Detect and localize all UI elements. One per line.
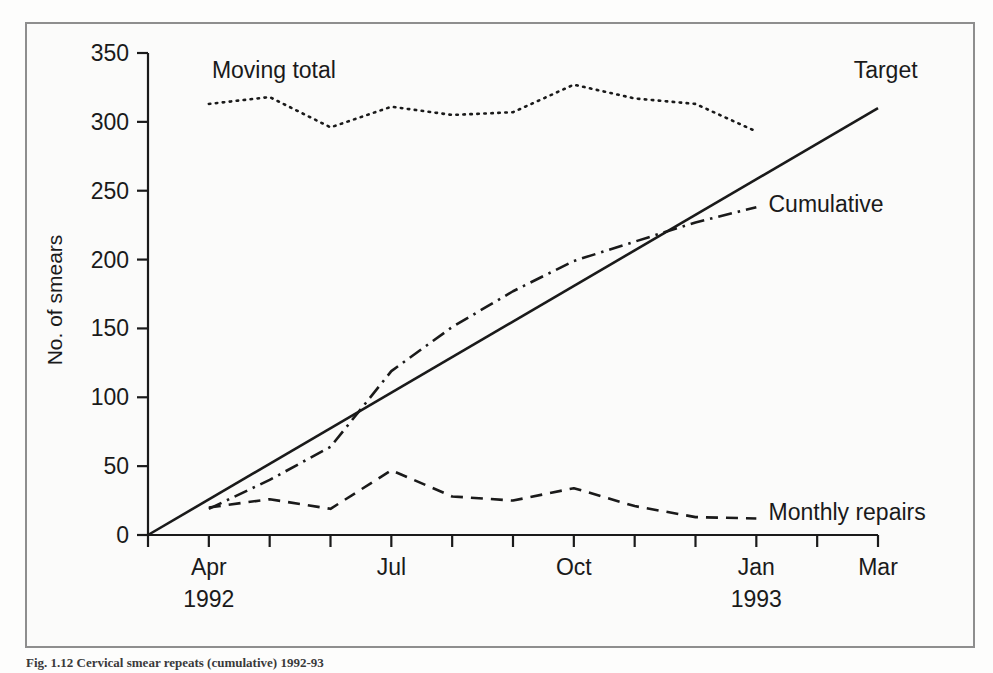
x-axis-tick-label: Mar <box>858 554 898 580</box>
series-line-target <box>148 108 878 535</box>
series-label-cumulative: Cumulative <box>769 191 884 217</box>
series-line-monthly-repairs <box>209 470 757 518</box>
series-label-target: Target <box>854 57 919 83</box>
x-axis-tick-label: Apr <box>191 554 227 580</box>
y-axis-tick-label: 200 <box>91 247 129 273</box>
series-label-moving-total: Moving total <box>212 57 336 83</box>
chart-svg: 050100150200250300350No. of smearsApr199… <box>0 0 993 673</box>
figure-page: 050100150200250300350No. of smearsApr199… <box>0 0 993 673</box>
y-axis-tick-label: 0 <box>116 522 129 548</box>
y-axis-title: No. of smears <box>43 235 66 366</box>
series-line-moving-total <box>209 85 757 132</box>
y-axis-tick-label: 150 <box>91 315 129 341</box>
axes-group: 050100150200250300350No. of smearsApr199… <box>43 40 898 612</box>
figure-caption: Fig. 1.12 Cervical smear repeats (cumula… <box>26 654 966 672</box>
series-group <box>148 85 878 535</box>
y-axis-tick-label: 300 <box>91 109 129 135</box>
y-axis-tick-label: 350 <box>91 40 129 66</box>
x-axis-year-label: 1993 <box>731 586 782 612</box>
x-axis-tick-label: Jan <box>738 554 775 580</box>
x-axis-tick-label: Oct <box>556 554 592 580</box>
x-axis-tick-label: Jul <box>377 554 406 580</box>
series-line-cumulative <box>209 207 757 509</box>
y-axis-tick-label: 250 <box>91 178 129 204</box>
x-axis-year-label: 1992 <box>183 586 234 612</box>
y-axis-tick-label: 50 <box>103 453 129 479</box>
y-axis-tick-label: 100 <box>91 384 129 410</box>
series-label-monthly-repairs: Monthly repairs <box>769 499 926 525</box>
